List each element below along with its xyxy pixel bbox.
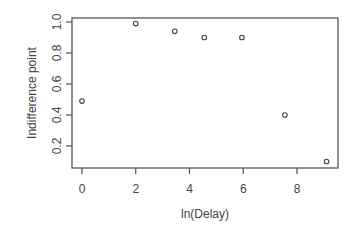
y-tick-label: 0.6 — [50, 75, 64, 92]
y-tick-label: 1.0 — [50, 13, 64, 30]
x-tick-label: 0 — [79, 182, 86, 196]
data-points — [80, 21, 329, 164]
x-tick-label: 8 — [294, 182, 301, 196]
y-tick-label: 0.4 — [50, 106, 64, 123]
data-point — [172, 29, 177, 34]
data-point — [324, 159, 329, 164]
y-axis: 0.20.40.60.81.0 — [50, 13, 72, 154]
x-axis: 02468 — [79, 168, 301, 196]
x-tick-label: 6 — [240, 182, 247, 196]
y-axis-label: Indifference point — [25, 46, 39, 139]
data-point — [283, 113, 288, 118]
data-point — [202, 35, 207, 40]
x-axis-label: ln(Delay) — [181, 207, 229, 221]
data-point — [133, 21, 138, 26]
y-tick-label: 0.8 — [50, 44, 64, 61]
y-tick-label: 0.2 — [50, 137, 64, 154]
x-tick-label: 4 — [186, 182, 193, 196]
x-tick-label: 2 — [132, 182, 139, 196]
data-point — [80, 99, 85, 104]
scatter-plot: 02468 0.20.40.60.81.0 ln(Delay) Indiffer… — [0, 0, 354, 230]
plot-frame — [72, 18, 338, 168]
data-point — [240, 35, 245, 40]
